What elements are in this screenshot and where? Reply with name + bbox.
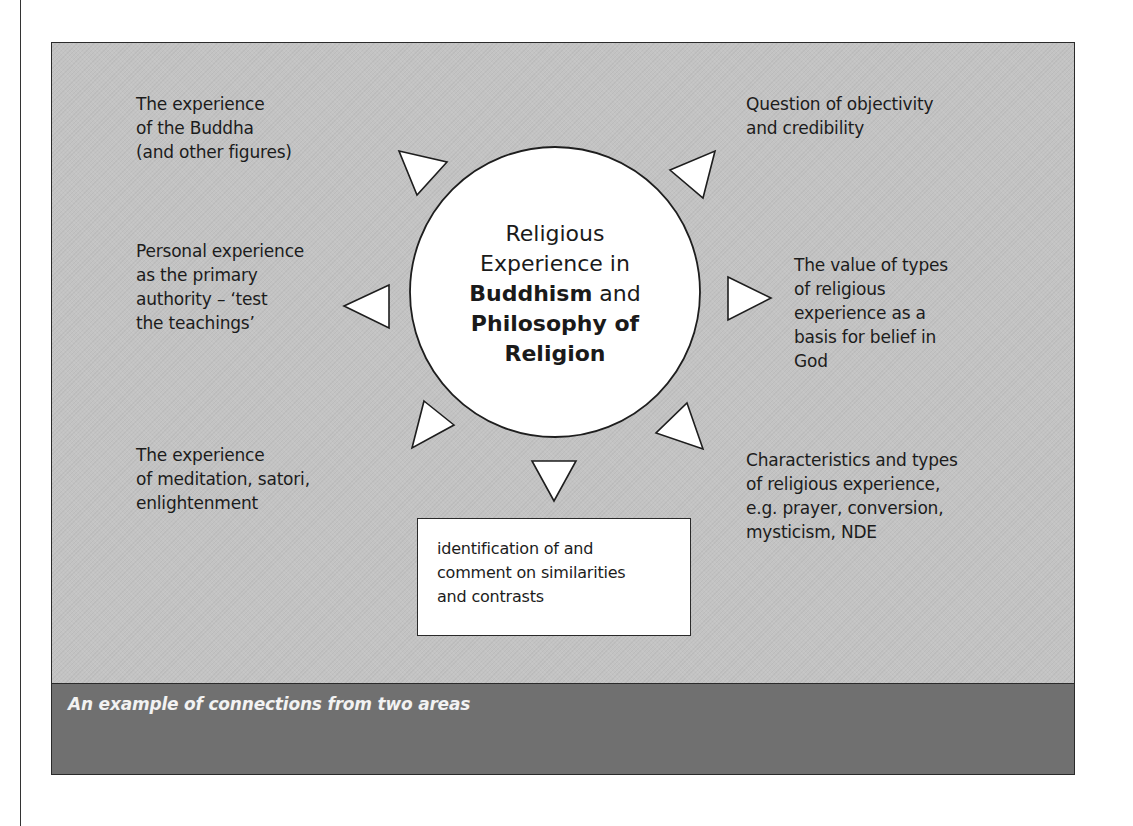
hub-buddhism: Buddhism — [469, 281, 592, 306]
figure-caption: An example of connections from two areas — [68, 694, 470, 714]
hub-and: and — [592, 281, 640, 306]
node-personal-authority: Personal experience as the primary autho… — [136, 239, 304, 335]
arrow-down-icon — [532, 461, 576, 501]
summary-box: identification of and comment on similar… — [417, 518, 691, 636]
hub-line-2: Experience in — [469, 249, 641, 279]
diagram-panel: The experience of the Buddha (and other … — [51, 42, 1075, 775]
caption-band: An example of connections from two areas — [52, 683, 1074, 774]
page-margin-rule — [20, 0, 21, 826]
hub-line-3: Buddhism and — [469, 279, 641, 309]
node-characteristics: Characteristics and types of religious e… — [746, 448, 958, 544]
node-value-of-types: The value of types of religious experien… — [794, 253, 948, 373]
hub-philosophy-of: Philosophy of — [471, 311, 639, 336]
hub-title: Religious Experience in Buddhism and Phi… — [410, 147, 700, 437]
hub-line-4: Philosophy of — [469, 309, 641, 339]
arrow-right-icon — [728, 277, 771, 320]
node-meditation: The experience of meditation, satori, en… — [136, 443, 310, 515]
node-objectivity: Question of objectivity and credibility — [746, 92, 933, 140]
node-buddha-experience: The experience of the Buddha (and other … — [136, 92, 292, 164]
arrow-left-icon — [344, 285, 389, 328]
hub-line-1: Religious — [469, 219, 641, 249]
hub-religion: Religion — [504, 341, 605, 366]
hub-line-5: Religion — [469, 339, 641, 369]
